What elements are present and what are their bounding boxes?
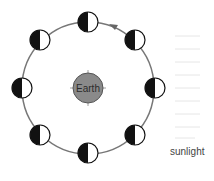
moon-top-right — [125, 30, 145, 50]
sunlight-label: sunlight — [170, 146, 204, 157]
sunlight-rays — [175, 36, 200, 138]
moon-bottom — [78, 143, 98, 163]
moon-left — [12, 78, 32, 98]
moon-top-left — [30, 30, 50, 50]
moon-bottom-right — [125, 125, 145, 145]
earth: Earth — [70, 70, 106, 106]
moon-right — [145, 78, 165, 98]
moon-top — [78, 12, 98, 32]
moon-bottom-left — [30, 125, 50, 145]
earth-label: Earth — [76, 83, 100, 94]
